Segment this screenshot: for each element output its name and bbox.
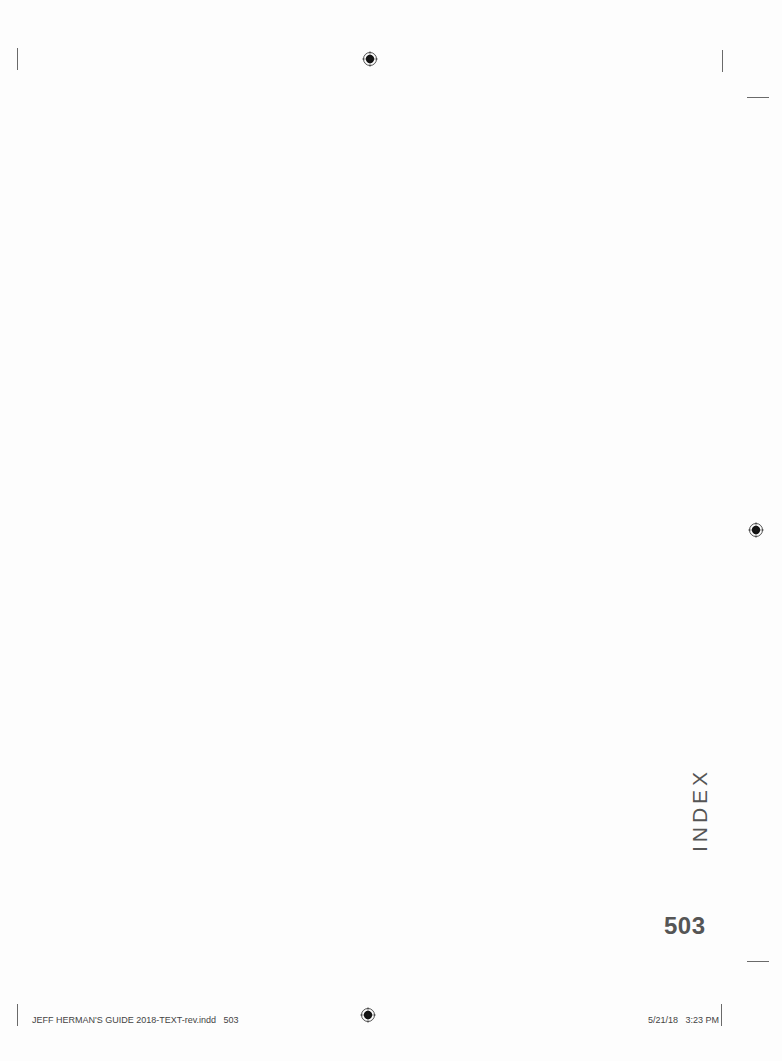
section-tab-label: INDEX <box>688 768 712 852</box>
crop-mark-bottom-left <box>17 1004 18 1026</box>
registration-target-icon <box>360 1007 376 1023</box>
slug-file-info: JEFF HERMAN'S GUIDE 2018-TEXT-rev.indd 5… <box>32 1015 239 1025</box>
registration-target-icon <box>362 51 378 67</box>
crop-mark-right-top <box>747 97 769 98</box>
slug-timestamp: 5/21/18 3:23 PM <box>648 1015 719 1025</box>
crop-mark-bottom-right <box>721 1004 722 1026</box>
crop-mark-top-right <box>722 50 723 72</box>
crop-mark-right-bottom <box>747 961 769 962</box>
registration-target-icon <box>748 522 764 538</box>
crop-mark-top-left <box>17 48 18 70</box>
page-number: 503 <box>664 912 706 940</box>
section-tab: INDEX <box>680 760 720 860</box>
